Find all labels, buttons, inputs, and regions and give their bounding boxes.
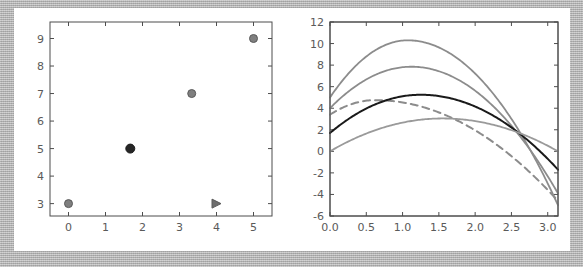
x-tick-label: 1 <box>102 221 109 234</box>
x-tick-label: 0 <box>65 221 72 234</box>
x-tick-label: 3.0 <box>539 221 557 234</box>
y-tick-label: 8 <box>317 59 324 72</box>
y-tick-label: 7 <box>37 88 44 101</box>
scatter-marker-circle <box>65 200 73 208</box>
x-tick-label: 3 <box>176 221 183 234</box>
y-tick-label: 9 <box>37 33 44 46</box>
scatter-marker-circle <box>250 35 258 43</box>
y-tick-label: -4 <box>313 188 324 201</box>
x-tick-label: 1.5 <box>430 221 448 234</box>
y-tick-label: 0 <box>317 145 324 158</box>
line-panel: 0.00.51.01.52.02.53.0-6-4-2024681012 <box>290 8 570 251</box>
y-tick-label: -6 <box>313 210 324 223</box>
scatter-marker-circle <box>126 144 135 153</box>
x-tick-label: 2.5 <box>503 221 521 234</box>
screenshot-root: 0123453456789 0.00.51.01.52.02.53.0-6-4-… <box>0 0 583 267</box>
axes-frame <box>50 22 272 216</box>
x-tick-label: 5 <box>250 221 257 234</box>
scatter-panel: 0123453456789 <box>14 8 290 251</box>
y-tick-label: 5 <box>37 143 44 156</box>
y-tick-label: 4 <box>37 170 44 183</box>
y-tick-label: 6 <box>37 115 44 128</box>
matplotlib-figure: 0123453456789 0.00.51.01.52.02.53.0-6-4-… <box>14 8 570 251</box>
y-tick-label: 4 <box>317 102 324 115</box>
y-tick-label: -2 <box>313 167 324 180</box>
x-tick-label: 0.5 <box>358 221 376 234</box>
y-tick-label: 8 <box>37 60 44 73</box>
y-tick-label: 3 <box>37 198 44 211</box>
y-tick-label: 2 <box>317 124 324 137</box>
x-tick-label: 2.0 <box>466 221 484 234</box>
scatter-marker-circle <box>188 90 196 98</box>
line-plot-svg: 0.00.51.01.52.02.53.0-6-4-2024681012 <box>290 8 570 251</box>
x-tick-label: 2 <box>139 221 146 234</box>
x-tick-label: 4 <box>213 221 220 234</box>
scatter-plot-svg: 0123453456789 <box>14 8 290 251</box>
x-tick-label: 1.0 <box>394 221 412 234</box>
y-tick-label: 12 <box>310 16 324 29</box>
y-tick-label: 10 <box>310 38 324 51</box>
y-tick-label: 6 <box>317 81 324 94</box>
